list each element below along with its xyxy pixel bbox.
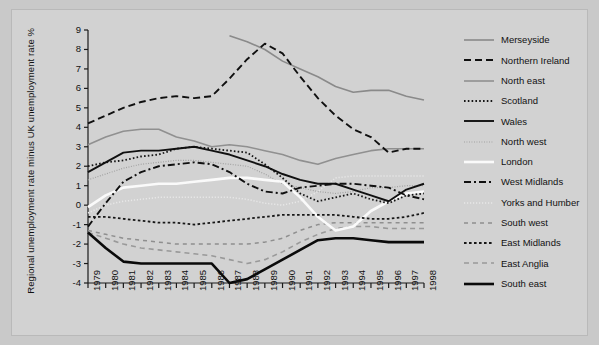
y-tick-label: 0 [63, 200, 81, 210]
chart-legend: MerseysideNorthern IrelandNorth eastScot… [464, 30, 599, 294]
x-tick-label: 1981 [127, 270, 137, 291]
y-tick-label: 1 [63, 181, 81, 191]
legend-item[interactable]: Wales [464, 111, 599, 131]
legend-item[interactable]: North west [464, 131, 599, 151]
legend-item[interactable]: West Midlands [464, 172, 599, 192]
legend-swatch-icon [464, 176, 494, 188]
x-tick-label: 1993 [340, 270, 350, 291]
legend-item[interactable]: South west [464, 213, 599, 233]
x-tick-label: 1982 [145, 270, 155, 291]
x-tick-label: 1996 [393, 270, 403, 291]
legend-label: South west [501, 218, 548, 228]
legend-item[interactable]: Yorks and Humber [464, 192, 599, 212]
series-line [88, 162, 424, 226]
legend-item[interactable]: East Anglia [464, 253, 599, 273]
series-line [88, 44, 424, 153]
legend-label: South east [501, 279, 546, 289]
legend-swatch-icon [464, 95, 494, 107]
x-tick-label: 1985 [198, 270, 208, 291]
x-tick-label: 1983 [163, 270, 173, 291]
x-tick-label: 1990 [287, 270, 297, 291]
legend-label: Yorks and Humber [501, 198, 579, 208]
legend-swatch-icon [464, 34, 494, 46]
series-line [88, 227, 424, 264]
chart-panel: Regional unemployment rate minus UK unem… [11, 9, 588, 336]
legend-label: Northern Ireland [501, 56, 570, 66]
y-tick-label: -3 [63, 259, 81, 269]
x-tick-label: 1988 [251, 270, 261, 291]
y-tick-label: 9 [63, 25, 81, 35]
legend-label: East Anglia [501, 259, 549, 269]
legend-swatch-icon [464, 217, 494, 229]
x-tick-label: 1987 [233, 270, 243, 291]
x-tick-label: 1997 [410, 270, 420, 291]
y-tick-label: 6 [63, 83, 81, 93]
x-tick-label: 1991 [304, 270, 314, 291]
legend-item[interactable]: Merseyside [464, 30, 599, 50]
legend-item[interactable]: Northern Ireland [464, 50, 599, 70]
legend-swatch-icon [464, 156, 494, 168]
x-tick-label: 1998 [428, 270, 438, 291]
y-tick-label: 4 [63, 122, 81, 132]
x-tick-label: 1979 [92, 270, 102, 291]
x-tick-label: 1980 [110, 270, 120, 291]
legend-swatch-icon [464, 136, 494, 148]
legend-item[interactable]: East Midlands [464, 233, 599, 253]
legend-label: North east [501, 76, 545, 86]
x-tick-label: 1989 [269, 270, 279, 291]
plot-area [74, 28, 426, 293]
y-tick-label: 5 [63, 103, 81, 113]
legend-label: Merseyside [501, 35, 550, 45]
y-tick-label: 8 [63, 44, 81, 54]
series-line [229, 36, 424, 100]
series-line [88, 147, 424, 201]
legend-swatch-icon [464, 257, 494, 269]
x-tick-label: 1995 [375, 270, 385, 291]
x-tick-label: 1986 [216, 270, 226, 291]
legend-swatch-icon [464, 237, 494, 249]
legend-item[interactable]: London [464, 152, 599, 172]
series-line [88, 176, 424, 213]
chart-screenshot: Regional unemployment rate minus UK unem… [0, 0, 599, 345]
y-tick-label: -2 [63, 239, 81, 249]
legend-swatch-icon [464, 75, 494, 87]
y-tick-label: -4 [63, 278, 81, 288]
x-tick-label: 1994 [357, 270, 367, 291]
y-tick-label: 2 [63, 161, 81, 171]
legend-item[interactable]: North east [464, 71, 599, 91]
legend-item[interactable]: Scotland [464, 91, 599, 111]
legend-swatch-icon [464, 197, 494, 209]
y-tick-label: 3 [63, 142, 81, 152]
chart-svg [74, 28, 426, 293]
y-axis-title: Regional unemployment rate minus UK unem… [26, 44, 36, 294]
y-tick-label: -1 [63, 220, 81, 230]
legend-swatch-icon [464, 278, 494, 290]
x-tick-label: 1984 [180, 270, 190, 291]
legend-label: North west [501, 137, 546, 147]
legend-label: West Midlands [501, 177, 563, 187]
legend-swatch-icon [464, 115, 494, 127]
y-tick-label: 7 [63, 64, 81, 74]
legend-label: East Midlands [501, 238, 561, 248]
legend-item[interactable]: South east [464, 274, 599, 294]
series-line [88, 147, 424, 203]
legend-label: Scotland [501, 96, 538, 106]
legend-label: London [501, 157, 533, 167]
x-tick-label: 1992 [322, 270, 332, 291]
legend-swatch-icon [464, 54, 494, 66]
legend-label: Wales [501, 117, 527, 127]
